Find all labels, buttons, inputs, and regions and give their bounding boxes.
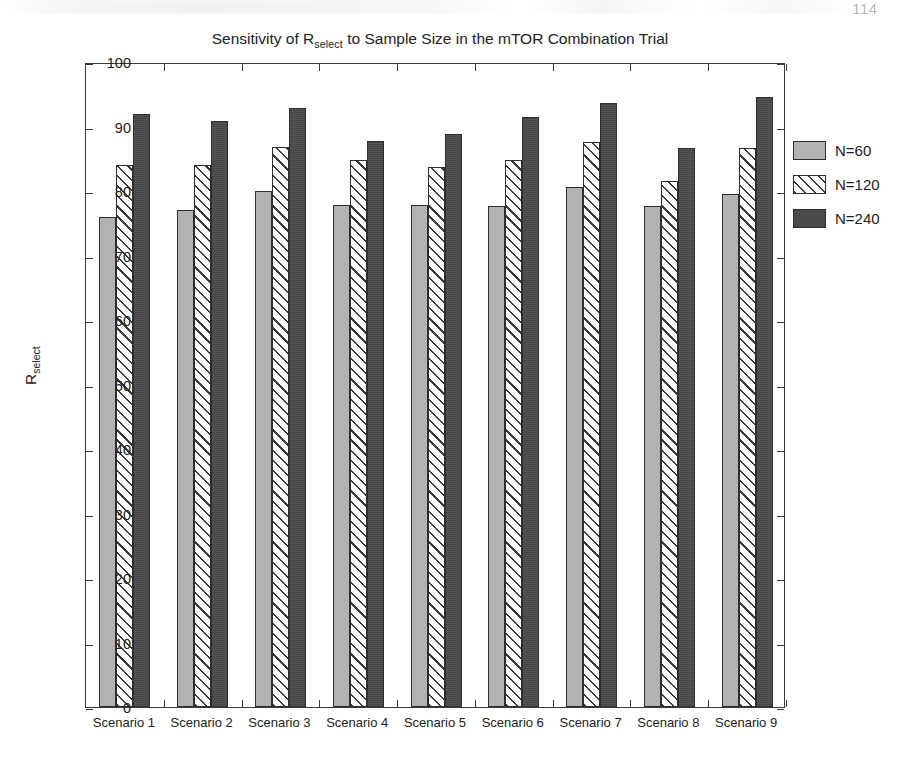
chart-title-prefix: Sensitivity of R bbox=[212, 30, 315, 47]
bar bbox=[522, 117, 539, 707]
bar-group bbox=[177, 64, 228, 707]
bar bbox=[367, 141, 384, 707]
x-axis-tick bbox=[708, 64, 709, 71]
x-axis-tick bbox=[786, 700, 787, 707]
bar bbox=[722, 194, 739, 707]
bar-group bbox=[255, 64, 306, 707]
bar bbox=[272, 147, 289, 708]
x-axis-tick-label: Scenario 2 bbox=[171, 715, 233, 730]
bar bbox=[411, 205, 428, 707]
y-axis-tick bbox=[777, 129, 784, 130]
bar-group bbox=[644, 64, 695, 707]
plot-area bbox=[85, 63, 785, 708]
y-axis-label-main: R bbox=[22, 374, 39, 385]
x-axis-tick-label: Scenario 5 bbox=[404, 715, 466, 730]
bar bbox=[756, 97, 773, 707]
y-axis-tick-label: 10 bbox=[71, 636, 131, 652]
x-axis-tick bbox=[397, 700, 398, 707]
y-axis-tick bbox=[777, 709, 784, 710]
legend-item: N=240 bbox=[793, 204, 915, 232]
y-axis-tick-label: 30 bbox=[71, 507, 131, 523]
x-axis-tick bbox=[630, 64, 631, 71]
y-axis-label-subscript: select bbox=[30, 346, 42, 373]
bar bbox=[177, 210, 194, 707]
x-axis-tick bbox=[164, 700, 165, 707]
y-axis-label: Rselect bbox=[22, 346, 42, 385]
legend-swatch bbox=[793, 175, 826, 194]
bar bbox=[566, 187, 583, 708]
x-axis-tick bbox=[475, 700, 476, 707]
x-axis-tick bbox=[630, 700, 631, 707]
bar-group bbox=[411, 64, 462, 707]
legend-swatch bbox=[793, 209, 826, 228]
bar bbox=[333, 205, 350, 707]
y-axis-tick bbox=[777, 387, 784, 388]
bar bbox=[255, 191, 272, 707]
x-axis-tick bbox=[397, 64, 398, 71]
figure-container: Sensitivity of Rselect to Sample Size in… bbox=[0, 18, 924, 774]
bar bbox=[211, 121, 228, 707]
chart-title: Sensitivity of Rselect to Sample Size in… bbox=[0, 30, 880, 50]
x-axis-tick-label: Scenario 7 bbox=[559, 715, 621, 730]
legend-item: N=60 bbox=[793, 136, 915, 164]
x-axis-tick-label: Scenario 1 bbox=[93, 715, 155, 730]
y-axis-tick bbox=[777, 451, 784, 452]
bar bbox=[445, 134, 462, 707]
legend-item: N=120 bbox=[793, 170, 915, 198]
y-axis-tick-label: 20 bbox=[71, 571, 131, 587]
y-axis-tick-label: 100 bbox=[71, 55, 131, 71]
y-axis-tick-label: 40 bbox=[71, 442, 131, 458]
bar-group bbox=[566, 64, 617, 707]
bar bbox=[505, 160, 522, 707]
x-axis-tick-label: Scenario 8 bbox=[637, 715, 699, 730]
bar bbox=[428, 167, 445, 707]
y-axis-tick bbox=[777, 64, 784, 65]
y-axis-tick-label: 70 bbox=[71, 249, 131, 265]
x-axis-tick-label: Scenario 3 bbox=[248, 715, 310, 730]
y-axis-tick-label: 80 bbox=[71, 184, 131, 200]
y-axis-tick-label: 90 bbox=[71, 120, 131, 136]
x-axis-tick bbox=[319, 64, 320, 71]
x-axis-tick bbox=[553, 64, 554, 71]
bar bbox=[600, 103, 617, 707]
x-axis-tick bbox=[708, 700, 709, 707]
y-axis-tick bbox=[777, 258, 784, 259]
x-axis-tick bbox=[553, 700, 554, 707]
bar bbox=[678, 148, 695, 707]
bar-group bbox=[722, 64, 773, 707]
legend-label: N=60 bbox=[835, 142, 871, 159]
y-axis-tick bbox=[777, 193, 784, 194]
scan-artifact bbox=[0, 0, 924, 14]
chart-title-suffix: to Sample Size in the mTOR Combination T… bbox=[343, 30, 668, 47]
bar bbox=[289, 108, 306, 707]
y-axis-tick bbox=[777, 516, 784, 517]
y-axis-tick bbox=[777, 645, 784, 646]
bar bbox=[116, 165, 133, 707]
page-number: 114 bbox=[845, 0, 885, 17]
legend-label: N=240 bbox=[835, 210, 880, 227]
bar bbox=[350, 160, 367, 707]
bar bbox=[194, 165, 211, 707]
bar bbox=[583, 142, 600, 707]
legend-label: N=120 bbox=[835, 176, 880, 193]
x-axis-tick-label: Scenario 6 bbox=[482, 715, 544, 730]
bar bbox=[739, 148, 756, 707]
x-axis-tick bbox=[475, 64, 476, 71]
x-axis-tick bbox=[786, 64, 787, 71]
bar bbox=[99, 217, 116, 707]
legend-swatch bbox=[793, 141, 826, 160]
bar-group bbox=[333, 64, 384, 707]
bar bbox=[644, 206, 661, 707]
x-axis-tick bbox=[164, 64, 165, 71]
x-axis-tick bbox=[242, 64, 243, 71]
x-axis-tick-label: Scenario 9 bbox=[715, 715, 777, 730]
y-axis-tick bbox=[777, 580, 784, 581]
y-axis-tick-label: 50 bbox=[71, 378, 131, 394]
y-axis-tick-label: 60 bbox=[71, 313, 131, 329]
y-axis-tick bbox=[777, 322, 784, 323]
bar bbox=[488, 206, 505, 707]
y-axis-tick-label: 0 bbox=[71, 700, 131, 716]
bar-group bbox=[488, 64, 539, 707]
x-axis-tick bbox=[319, 700, 320, 707]
x-axis-tick bbox=[242, 700, 243, 707]
